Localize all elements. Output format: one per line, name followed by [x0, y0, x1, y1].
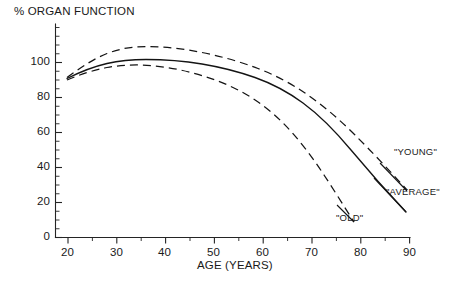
y-tick-label-60: 60: [18, 125, 50, 137]
series-average-curve: [67, 60, 406, 213]
series-old-curve: [67, 65, 354, 222]
chart-canvas: [0, 0, 459, 288]
x-tick-label-30: 30: [110, 246, 123, 258]
x-axis-title: AGE (YEARS): [197, 259, 273, 271]
x-tick-label-70: 70: [305, 246, 318, 258]
x-tick-label-40: 40: [158, 246, 171, 258]
series-young-curve: [67, 47, 407, 191]
y-tick-label-40: 40: [18, 160, 50, 172]
y-axis-title: % ORGAN FUNCTION: [14, 5, 135, 17]
organ-function-chart: % ORGAN FUNCTION AGE (YEARS) 100 80 60 4…: [0, 0, 459, 288]
y-tick-label-80: 80: [18, 90, 50, 102]
series-label-old: "OLD": [336, 212, 363, 223]
axes-group: [56, 24, 411, 238]
x-tick-label-60: 60: [256, 246, 269, 258]
x-tick-label-80: 80: [354, 246, 367, 258]
series-label-young: "YOUNG": [394, 146, 437, 157]
y-minor-ticks: [56, 28, 60, 229]
series-label-average: "AVERAGE": [386, 186, 440, 197]
y-tick-label-100: 100: [18, 55, 50, 67]
x-tick-label-90: 90: [403, 246, 416, 258]
y-tick-label-0: 0: [18, 230, 50, 242]
x-tick-label-50: 50: [207, 246, 220, 258]
x-tick-label-20: 20: [61, 246, 74, 258]
y-tick-label-20: 20: [18, 195, 50, 207]
